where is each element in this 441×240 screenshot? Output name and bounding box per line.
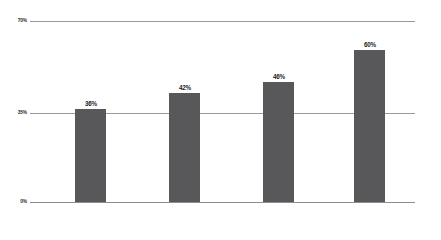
- y-axis-tick-label-0: 0%: [4, 198, 27, 204]
- plot-area: 36% Millenials 42% Generation X 46% Baby…: [30, 21, 415, 202]
- bar-baby-boomers[interactable]: [263, 82, 294, 202]
- gridline-70: [30, 21, 415, 22]
- bar-value-millenials: 36%: [64, 100, 118, 107]
- bar-value-older-americans: 60%: [343, 41, 397, 48]
- axis-baseline-0: [30, 202, 415, 203]
- y-axis-tick-label-35: 35%: [4, 109, 27, 115]
- bar-millenials[interactable]: [75, 109, 106, 202]
- y-axis: 70% 35% 0%: [0, 21, 27, 202]
- bar-older-americans[interactable]: [354, 50, 385, 202]
- bar-generation-x[interactable]: [169, 93, 200, 202]
- y-axis-tick-label-70: 70%: [4, 17, 27, 23]
- bar-value-generation-x: 42%: [158, 84, 212, 91]
- bar-chart: 70% 35% 0% 36% Millenials 42% Generation…: [0, 0, 441, 240]
- bar-value-baby-boomers: 46%: [252, 73, 306, 80]
